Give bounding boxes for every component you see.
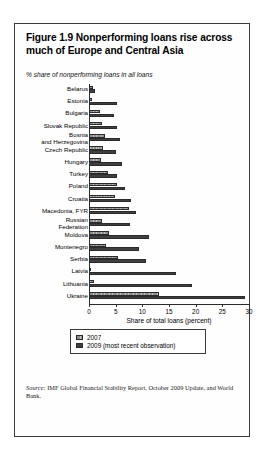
chart-row: Estonia [15, 97, 251, 109]
bar-2009 [89, 126, 117, 129]
chart-row: Poland [15, 182, 251, 194]
category-label: Czech Republic [0, 147, 88, 154]
x-axis-label: Share of total loans (percent) [89, 317, 249, 324]
bar-group [89, 243, 251, 255]
source-label: Source: [26, 384, 46, 391]
category-label: Macedonia, FYR [0, 208, 88, 215]
source-body: IMF Global Financial Stability Report, O… [26, 384, 233, 399]
bar-group [89, 194, 251, 206]
bar-2009 [89, 247, 139, 250]
x-axis-tick [196, 304, 197, 307]
bar-group [89, 146, 251, 158]
bar-group [89, 219, 251, 231]
bar-2009 [89, 150, 116, 153]
bar-group [89, 170, 251, 182]
category-label: Slovak Republic [0, 123, 88, 130]
x-axis-tick-label: 10 [139, 308, 146, 315]
bar-2009 [89, 259, 146, 262]
category-label: Belarus [0, 86, 88, 93]
bar-group [89, 182, 251, 194]
bar-2009 [89, 296, 245, 299]
chart-row: Belarus [15, 85, 251, 97]
y-axis [89, 84, 90, 304]
x-axis-tick-label: 0 [87, 308, 91, 315]
bar-group [89, 97, 251, 109]
bar-group [89, 134, 251, 146]
legend-swatch-icon [76, 343, 83, 348]
bar-2009 [89, 114, 114, 117]
x-axis-tick-label: 25 [219, 308, 226, 315]
category-label: Poland [0, 183, 88, 190]
chart-row: Croatia [15, 194, 251, 206]
x-axis-tick [116, 304, 117, 307]
category-label: Bosniaand Herzegovina [0, 132, 88, 145]
bar-chart: BelarusEstoniaBulgariaSlovak RepublicBos… [15, 84, 251, 314]
x-axis-tick-label: 5 [114, 308, 118, 315]
chart-row: Turkey [15, 170, 251, 182]
chart-row: Bulgaria [15, 109, 251, 121]
category-label: Croatia [0, 196, 88, 203]
chart-row: Bosniaand Herzegovina [15, 134, 251, 146]
bar-2009 [89, 199, 131, 202]
category-label: Hungary [0, 159, 88, 166]
x-axis-tick-label: 15 [165, 308, 172, 315]
chart-row: Hungary [15, 158, 251, 170]
chart-row: RussianFederation [15, 219, 251, 231]
bar-2009 [89, 174, 117, 177]
legend-label: 2007 [87, 334, 101, 341]
bar-group [89, 207, 251, 219]
bar-group [89, 158, 251, 170]
bar-2009 [89, 187, 125, 190]
bar-2009 [89, 235, 149, 238]
category-label: RussianFederation [0, 217, 88, 230]
page-title: Figure 1.9 Nonperforming loans rise acro… [26, 32, 242, 57]
figure-panel: Figure 1.9 Nonperforming loans rise acro… [14, 23, 250, 437]
category-label: Estonia [0, 98, 88, 105]
category-label: Lithuania [0, 281, 88, 288]
bar-group [89, 267, 251, 279]
category-label: Ukraine [0, 293, 88, 300]
x-axis-tick [249, 304, 250, 307]
bar-2009 [89, 102, 117, 105]
x-axis-tick-label: 30 [245, 308, 252, 315]
chart-row: Moldova [15, 231, 251, 243]
chart-row: Czech Republic [15, 146, 251, 158]
category-label: Bulgaria [0, 110, 88, 117]
bar-2009 [89, 284, 192, 287]
bar-group [89, 231, 251, 243]
category-label: Serbia [0, 256, 88, 263]
bar-group [89, 279, 251, 291]
bar-group [89, 109, 251, 121]
category-label: Moldova [0, 232, 88, 239]
bar-group [89, 85, 251, 97]
x-axis-tick [169, 304, 170, 307]
source-note: Source: IMF Global Financial Stability R… [26, 384, 238, 401]
chart-legend: 20072009 (most recent observation) [70, 329, 206, 354]
bar-group [89, 292, 251, 304]
chart-subtitle: % share of nonperforming loans in all lo… [26, 71, 242, 78]
category-label: Latvia [0, 268, 88, 275]
bar-2009 [89, 138, 120, 141]
x-axis-tick [222, 304, 223, 307]
legend-label: 2009 (most recent observation) [87, 342, 175, 349]
chart-row: Ukraine [15, 292, 251, 304]
chart-row: Serbia [15, 255, 251, 267]
category-label: Montenegro [0, 244, 88, 251]
bar-2009 [89, 162, 122, 165]
bar-2009 [89, 223, 130, 226]
x-axis-tick [89, 304, 90, 307]
chart-row: Lithuania [15, 279, 251, 291]
bar-2009 [89, 272, 176, 275]
legend-swatch-icon [76, 335, 83, 340]
x-axis-tick-label: 20 [192, 308, 199, 315]
chart-row: Montenegro [15, 243, 251, 255]
bar-2009 [89, 211, 136, 214]
category-label: Turkey [0, 171, 88, 178]
legend-item: 2007 [76, 333, 201, 342]
chart-row: Latvia [15, 267, 251, 279]
x-axis-tick [142, 304, 143, 307]
bar-group [89, 255, 251, 267]
legend-item: 2009 (most recent observation) [76, 342, 201, 351]
bar-group [89, 121, 251, 133]
